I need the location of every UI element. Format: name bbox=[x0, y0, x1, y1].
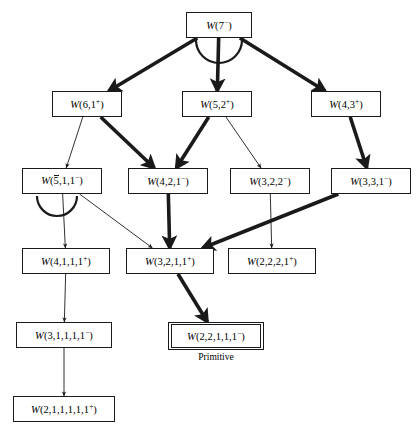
edge-n43-to-n331 bbox=[350, 117, 367, 168]
node-label: W(2,2,2,1+) bbox=[247, 256, 297, 267]
node-n52[interactable]: W(5,2+) bbox=[182, 91, 252, 117]
node-n31111[interactable]: W(3,1,1,1,1−) bbox=[16, 322, 112, 348]
edge-n4111-to-n31111 bbox=[64, 274, 65, 322]
node-n331[interactable]: W(3,3,1−) bbox=[331, 168, 411, 194]
node-label: W(3,2,1,1+) bbox=[145, 256, 195, 267]
edge-n331-to-n3211 bbox=[203, 194, 339, 248]
edge-n7-to-n52 bbox=[217, 38, 218, 91]
node-n322[interactable]: W(3,2,2−) bbox=[230, 168, 310, 194]
node-label: W(3,2,2−) bbox=[249, 176, 291, 187]
arc-n511 bbox=[37, 196, 77, 216]
edge-n7-to-n61 bbox=[109, 38, 198, 91]
edge-n3211-to-n22111 bbox=[178, 274, 207, 322]
edge-n322-to-n2221 bbox=[270, 194, 271, 248]
edge-n52-to-n421 bbox=[176, 117, 208, 168]
node-n22111[interactable]: W(2,2,1,1,1−) bbox=[168, 322, 264, 350]
node-label: W(5,2+) bbox=[200, 99, 234, 110]
lattice-diagram: W(7−)W(6,1+)W(5,2+)W(4,3+)W(5,1,1−)W(4,2… bbox=[0, 0, 418, 445]
node-label: W(5,1,1−) bbox=[41, 175, 83, 187]
edge-n61-to-n421 bbox=[101, 117, 155, 168]
node-n2221[interactable]: W(2,2,2,1+) bbox=[228, 248, 316, 274]
edge-n52-to-n322 bbox=[226, 117, 261, 168]
primitive-inner-border: W(2,2,1,1,1−) bbox=[171, 324, 261, 348]
node-n61[interactable]: W(6,1+) bbox=[52, 91, 122, 117]
node-n511[interactable]: W(5,1,1−) bbox=[22, 168, 102, 194]
node-label: W(4,2,1−) bbox=[147, 176, 189, 187]
node-label: W(2,2,1,1,1−) bbox=[187, 331, 245, 342]
node-n211111[interactable]: W(2,1,1,1,1,1+) bbox=[13, 396, 115, 422]
primitive-caption: Primitive bbox=[168, 352, 264, 362]
edge-layer bbox=[0, 0, 418, 445]
node-label: W(3,1,1,1,1−) bbox=[35, 330, 93, 341]
node-n421[interactable]: W(4,2,1−) bbox=[128, 168, 208, 194]
edge-n511-to-n4111 bbox=[63, 194, 66, 248]
arc-root bbox=[196, 40, 242, 63]
node-n4111[interactable]: W(4,1,1,1+) bbox=[22, 248, 110, 274]
node-label: W(7−) bbox=[206, 20, 232, 31]
edge-n7-to-n43 bbox=[240, 38, 325, 91]
node-n3211[interactable]: W(3,2,1,1+) bbox=[126, 248, 214, 274]
node-label: W(4,3+) bbox=[329, 99, 363, 110]
node-n43[interactable]: W(4,3+) bbox=[311, 91, 381, 117]
node-label: W(2,1,1,1,1,1+) bbox=[31, 404, 97, 415]
node-label: W(3,3,1−) bbox=[350, 176, 392, 187]
edge-n61-to-n511 bbox=[66, 117, 83, 168]
node-n7[interactable]: W(7−) bbox=[186, 12, 252, 38]
node-label: W(6,1+) bbox=[70, 99, 104, 110]
edge-n511-to-n3211 bbox=[80, 194, 153, 248]
edge-n421-to-n3211 bbox=[168, 194, 169, 248]
node-label: W(4,1,1,1+) bbox=[41, 256, 91, 267]
